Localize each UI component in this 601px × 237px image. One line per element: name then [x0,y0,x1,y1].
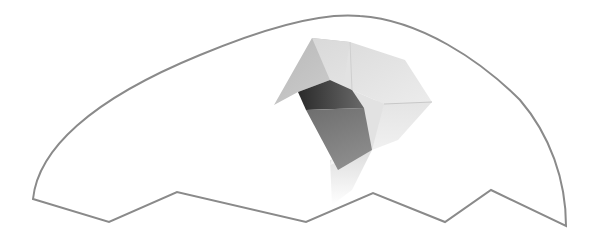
origami-paper-shape [274,38,432,205]
eggshell-outline [33,15,566,226]
eggshell-origami-graphic [0,0,601,237]
illustration: Origami paper cube shape emerging from a… [0,0,601,237]
